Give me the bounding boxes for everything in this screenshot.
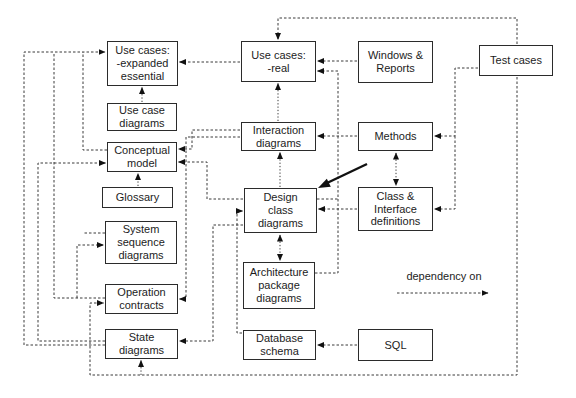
box-interaction-diagrams: Interaction diagrams — [241, 122, 316, 151]
box-class-interface-definitions: Class & Interface definitions — [358, 187, 433, 231]
box-system-sequence-diagrams: System sequence diagrams — [105, 221, 177, 264]
box-use-cases-expanded: Use cases: -expanded essential — [107, 41, 178, 86]
legend-label: dependency on — [398, 270, 490, 282]
edge-state-diagrams-to-conceptual-model — [38, 163, 106, 341]
edge-design-to-state-diagrams — [180, 225, 244, 341]
edge-database-schema-to-design — [237, 211, 243, 333]
box-database-schema: Database schema — [243, 330, 316, 360]
edge-interaction-to-conceptual-model — [179, 130, 241, 149]
box-architecture-package-diagrams: Architecture package diagrams — [243, 262, 315, 309]
artifact-dependency-diagram: Use cases: -expanded essential Use case … — [0, 0, 576, 398]
box-test-cases: Test cases — [479, 45, 553, 76]
highlight-arrow — [318, 164, 367, 188]
edge-left-trunk-to-use-cases-expanded — [24, 52, 107, 345]
edge-interaction-to-operation-contracts — [180, 137, 241, 299]
edge-design-and-architecture-to-use-cases-real — [315, 71, 338, 273]
edge-test-cases-to-methods-and-class-interface — [435, 68, 479, 209]
edge-design-to-conceptual-model — [179, 162, 244, 199]
box-operation-contracts: Operation contracts — [105, 284, 178, 314]
box-sql: SQL — [358, 329, 433, 361]
box-use-case-diagrams: Use case diagrams — [107, 103, 177, 131]
box-methods: Methods — [358, 122, 433, 151]
box-glossary: Glossary — [102, 187, 173, 208]
box-use-cases-real: Use cases: -real — [241, 41, 316, 82]
box-state-diagrams: State diagrams — [105, 329, 178, 359]
box-conceptual-model: Conceptual model — [107, 142, 177, 172]
box-design-class-diagrams: Design class diagrams — [244, 188, 317, 233]
edge-operation-contracts-to-ssd — [77, 245, 104, 298]
box-windows-reports: Windows & Reports — [358, 41, 433, 83]
